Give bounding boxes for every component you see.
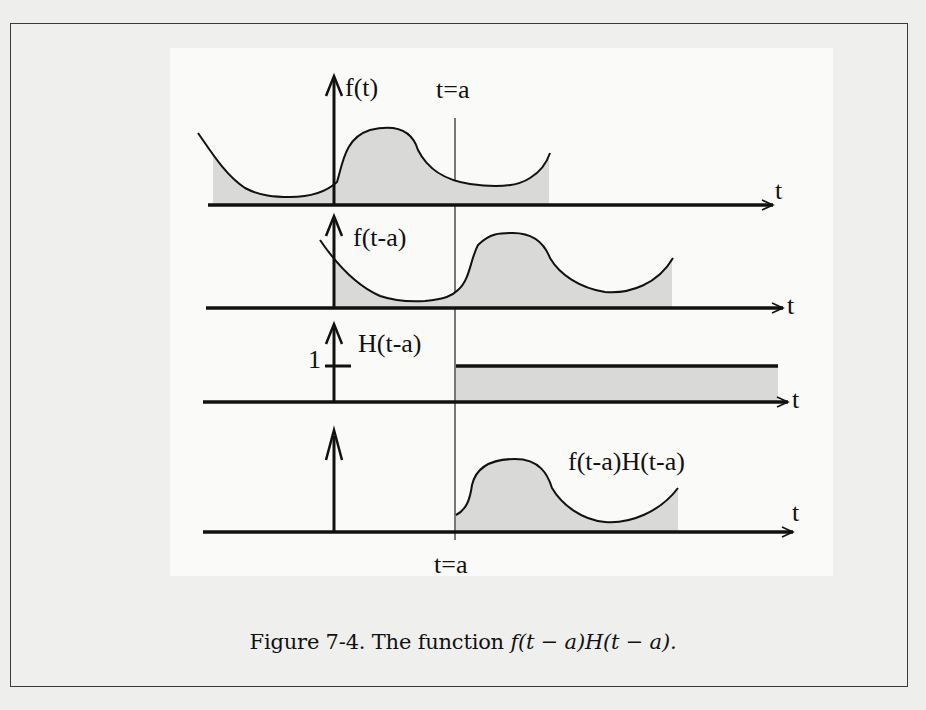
figure-diagram: f(t) t=a t f(t-a) t 1 H(t-a) t f(t-a)H(t… xyxy=(0,0,926,710)
product-y-label: f(t-a)H(t-a) xyxy=(568,447,685,476)
f-of-t-y-label: f(t) xyxy=(345,73,378,102)
heaviside-unit-tick-label: 1 xyxy=(308,345,321,374)
heaviside-shading xyxy=(456,367,778,402)
figure-caption: Figure 7-4. The function f(t − a)H(t − a… xyxy=(0,630,926,654)
f-of-t-minus-a-x-label: t xyxy=(787,291,795,320)
product-x-label: t xyxy=(792,498,800,527)
t-equals-a-bottom-label: t=a xyxy=(434,550,468,579)
f-of-t-x-label: t xyxy=(775,176,783,205)
panel-heaviside: 1 H(t-a) t xyxy=(203,324,800,414)
t-equals-a-top-label: t=a xyxy=(436,75,470,104)
heaviside-y-label: H(t-a) xyxy=(358,329,422,358)
panel-f-of-t-minus-a: f(t-a) t xyxy=(206,216,795,320)
figure-number: Figure 7-4. xyxy=(250,630,366,654)
f-of-t-shading xyxy=(213,128,549,205)
caption-text: The function xyxy=(372,630,504,654)
caption-math: f(t − a)H(t − a). xyxy=(510,630,676,654)
panel-product: f(t-a)H(t-a) t t=a xyxy=(203,430,800,579)
panel-f-of-t: f(t) t=a t xyxy=(198,73,783,205)
heaviside-x-label: t xyxy=(792,385,800,414)
f-of-t-minus-a-y-label: f(t-a) xyxy=(353,223,406,252)
